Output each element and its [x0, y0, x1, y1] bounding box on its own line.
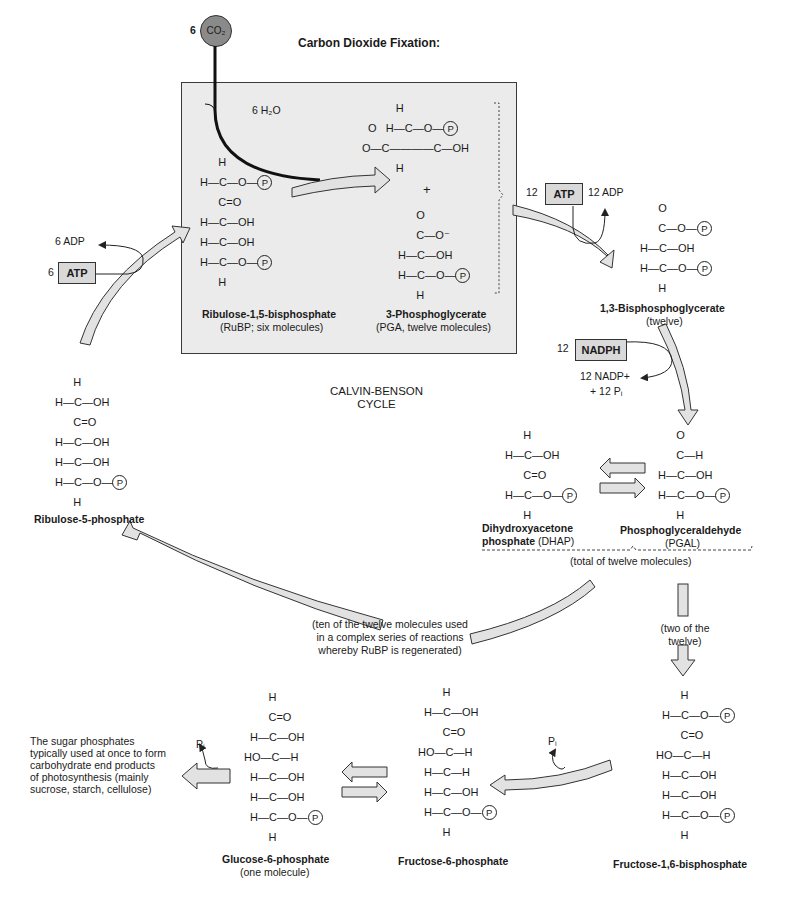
- total-note: (total of twelve molecules): [570, 555, 691, 568]
- pgal-sub: (PGAL): [665, 537, 700, 549]
- pgal-structure: O C—H H—C—OH H—C—O—P H: [658, 425, 730, 525]
- nadph-box: NADPH: [575, 339, 627, 361]
- dhap-name-line1: Dihydroxyacetone: [482, 522, 573, 534]
- nadp-label: 12 NADP+: [580, 370, 630, 382]
- f16bp-name: Fructose-1,6-bisphosphate: [613, 858, 747, 870]
- atp-left-box: ATP: [58, 262, 96, 284]
- phosphate-icon: P: [697, 221, 712, 236]
- dhap-structure: H H—C—OH C=O H—C—O—P H: [505, 425, 577, 525]
- phosphate-icon: P: [482, 805, 497, 820]
- phosphate-icon: P: [720, 708, 735, 723]
- f6p-name: Fructose-6-phosphate: [398, 855, 508, 867]
- g6p-name: Glucose-6-phosphate: [222, 853, 329, 865]
- dhap-name-line2: phosphate (DHAP): [482, 535, 574, 547]
- phosphate-icon: P: [257, 175, 272, 190]
- phosphate-icon: P: [112, 475, 127, 490]
- adp-left-label: 6 ADP: [55, 235, 85, 247]
- phosphate-icon: P: [443, 121, 458, 136]
- atp-left-count: 6: [48, 266, 54, 278]
- phosphate-icon: P: [257, 255, 272, 270]
- plus-sign: +: [423, 182, 431, 197]
- f16bp-structure: H H—C—O—P C=O HO—C—H H—C—OH H—C—OH H—C—O…: [656, 685, 735, 845]
- phosphate-icon: P: [562, 488, 577, 503]
- atp-right-count: 12: [526, 186, 538, 198]
- cycle-label: CALVIN-BENSON CYCLE: [330, 385, 423, 411]
- two-of-twelve-note: (two of the twelve): [660, 622, 710, 648]
- f6p-structure: H H—C—OH C=O HO—C—H H—C—H H—C—OH H—C—O—P…: [418, 682, 497, 842]
- pga-top-structure: H O H—C—O—P O—C————C—OH H: [362, 98, 469, 178]
- phosphate-icon: P: [720, 808, 735, 823]
- ru5p-name: Ribulose-5-phosphate: [34, 513, 144, 525]
- pga-sub: (PGA, twelve molecules): [376, 321, 491, 333]
- bpg-sub: (twelve): [646, 315, 683, 327]
- bpg-name: 1,3-Bisphosphoglycerate: [600, 302, 725, 314]
- adp-right-label: 12 ADP: [588, 186, 624, 198]
- pga-name: 3-Phosphoglycerate: [386, 308, 486, 320]
- pi-label: + 12 Pᵢ: [590, 385, 622, 397]
- phosphate-icon: P: [308, 810, 323, 825]
- pga-bottom-structure: O C—O⁻ H—C—OH H—C—O—P H: [398, 205, 470, 305]
- pi-f16-label: Pᵢ: [548, 735, 557, 747]
- rubp-structure: H H—C—O—P C=O H—C—OH H—C—OH H—C—O—P H: [200, 152, 272, 292]
- phosphate-icon: P: [455, 268, 470, 283]
- phosphate-icon: P: [697, 261, 712, 276]
- atp-right-box: ATP: [545, 183, 583, 205]
- g6p-structure: H C=O H—C—OH HO—C—H H—C—OH H—C—OH H—C—O—…: [244, 687, 323, 847]
- rubp-sub: (RuBP; six molecules): [220, 321, 323, 333]
- ru5p-structure: H H—C—OH C=O H—C—OH H—C—OH H—C—O—P H: [55, 372, 127, 512]
- bpg-structure: O C—O—P H—C—OH H—C—O—P H: [640, 198, 712, 298]
- nadph-count: 12: [557, 342, 569, 354]
- regeneration-note: (ten of the twelve molecules used in a c…: [300, 618, 480, 657]
- rubp-name: Ribulose-1,5-bisphosphate: [202, 308, 336, 320]
- g6p-sub: (one molecule): [240, 866, 309, 878]
- pgal-name: Phosphoglyceraldehyde: [620, 524, 741, 536]
- phosphate-icon: P: [715, 488, 730, 503]
- end-products-note: The sugar phosphates typically used at o…: [30, 735, 166, 795]
- pi-g6-label: Pᵢ: [196, 738, 205, 750]
